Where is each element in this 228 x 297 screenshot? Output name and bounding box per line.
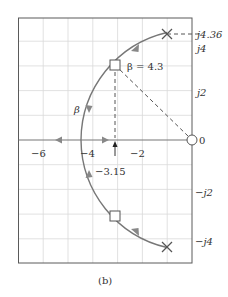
x-tick-neg2: −2 [130, 148, 145, 159]
y-tick-neg-j2: −j2 [195, 187, 213, 198]
pointer-arrow-icon [113, 141, 118, 147]
y-tick-j4: j4 [195, 43, 206, 54]
x-tick-neg4: −4 [80, 148, 95, 159]
breakin-label: −3.15 [95, 166, 126, 177]
x-tick-neg6: −6 [31, 148, 46, 159]
pole-imag-label: j4.36 [195, 29, 223, 40]
operating-point-lower-square-icon [110, 211, 120, 221]
arrow-beta-icon [86, 105, 93, 113]
radial-dash [115, 65, 189, 137]
root-locus-upper [81, 33, 167, 141]
operating-point-upper-square-icon [110, 60, 120, 70]
beta-value-label: β = 4.3 [127, 61, 163, 72]
y-tick-neg-j4: −j4 [195, 236, 213, 247]
root-locus-figure: j4.36 j4 j2 −j2 −j4 0 −6 −4 −2 β = 4.3 β… [0, 0, 228, 297]
origin-label: 0 [199, 135, 205, 146]
beta-label: β [73, 104, 80, 115]
arrow-left-icon [55, 137, 62, 144]
arrow-right-icon [102, 137, 109, 144]
figure-caption: (b) [98, 275, 112, 286]
y-tick-j2: j2 [195, 87, 206, 98]
zero-circle-icon [187, 135, 197, 145]
